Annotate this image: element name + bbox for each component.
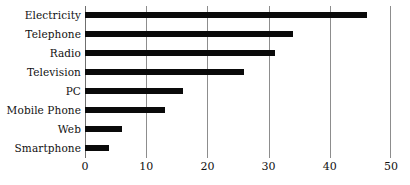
value-axis-labels: 0 10 20 30 40 50 — [85, 160, 391, 180]
bar-row — [85, 120, 391, 139]
bar-smartphone — [85, 145, 109, 151]
category-label-mobile-phone: Mobile Phone — [0, 101, 81, 120]
xtick-label-50: 50 — [384, 160, 398, 174]
category-label-pc: PC — [0, 82, 81, 101]
bar-row — [85, 139, 391, 158]
xtick-label-40: 40 — [323, 160, 337, 174]
bar-row — [85, 44, 391, 63]
bar-telephone — [85, 31, 293, 37]
bar-electricity — [85, 12, 367, 18]
category-axis-labels: Electricity Telephone Radio Television P… — [0, 6, 81, 158]
category-label-web: Web — [0, 120, 81, 139]
bar-series — [85, 6, 391, 158]
category-label-telephone: Telephone — [0, 25, 81, 44]
category-label-television: Television — [0, 63, 81, 82]
plot-area — [85, 6, 391, 158]
bar-pc — [85, 88, 183, 94]
bar-web — [85, 126, 122, 132]
bar-chart: Electricity Telephone Radio Television P… — [0, 0, 410, 185]
xtick-label-30: 30 — [262, 160, 276, 174]
bar-row — [85, 6, 391, 25]
category-label-electricity: Electricity — [0, 6, 81, 25]
xtick-label-0: 0 — [82, 160, 89, 174]
bar-row — [85, 63, 391, 82]
bar-mobile-phone — [85, 107, 165, 113]
category-label-smartphone: Smartphone — [0, 139, 81, 158]
bar-row — [85, 101, 391, 120]
category-label-radio: Radio — [0, 44, 81, 63]
bar-television — [85, 69, 244, 75]
bar-row — [85, 82, 391, 101]
bar-radio — [85, 50, 275, 56]
bar-row — [85, 25, 391, 44]
xtick-label-10: 10 — [139, 160, 153, 174]
xtick-label-20: 20 — [200, 160, 214, 174]
